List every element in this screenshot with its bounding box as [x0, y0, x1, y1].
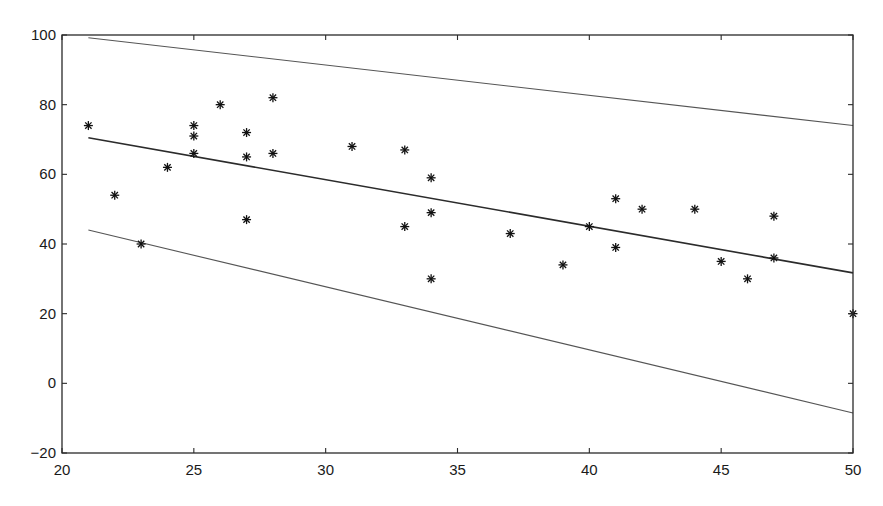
x-tick-label: 35 [449, 461, 466, 478]
chart-background [0, 0, 883, 506]
asterisk-marker-icon [611, 243, 620, 252]
y-tick-label: 20 [39, 305, 56, 322]
asterisk-marker-icon [400, 145, 409, 154]
asterisk-marker-icon [690, 205, 699, 214]
asterisk-marker-icon [506, 229, 515, 238]
x-tick-label: 30 [317, 461, 334, 478]
asterisk-marker-icon [769, 212, 778, 221]
asterisk-marker-icon [189, 121, 198, 130]
asterisk-marker-icon [769, 253, 778, 262]
x-tick-label: 20 [54, 461, 71, 478]
x-tick-label: 50 [845, 461, 862, 478]
x-tick-label: 40 [581, 461, 598, 478]
asterisk-marker-icon [216, 100, 225, 109]
y-tick-label: −20 [31, 444, 56, 461]
asterisk-marker-icon [268, 149, 277, 158]
asterisk-marker-icon [189, 149, 198, 158]
y-tick-label: 60 [39, 165, 56, 182]
asterisk-marker-icon [558, 260, 567, 269]
asterisk-marker-icon [638, 205, 647, 214]
asterisk-marker-icon [189, 132, 198, 141]
x-tick-label: 45 [713, 461, 730, 478]
asterisk-marker-icon [137, 240, 146, 249]
asterisk-marker-icon [585, 222, 594, 231]
x-tick-label: 25 [185, 461, 202, 478]
y-tick-label: 40 [39, 235, 56, 252]
asterisk-marker-icon [84, 121, 93, 130]
asterisk-marker-icon [268, 93, 277, 102]
asterisk-marker-icon [242, 128, 251, 137]
y-tick-label: 0 [48, 374, 56, 391]
asterisk-marker-icon [717, 257, 726, 266]
asterisk-marker-icon [427, 173, 436, 182]
asterisk-marker-icon [427, 208, 436, 217]
asterisk-marker-icon [242, 152, 251, 161]
scatter-chart: 20253035404550 100806040200−20 [0, 0, 883, 506]
asterisk-marker-icon [242, 215, 251, 224]
asterisk-marker-icon [163, 163, 172, 172]
asterisk-marker-icon [743, 274, 752, 283]
asterisk-marker-icon [427, 274, 436, 283]
asterisk-marker-icon [400, 222, 409, 231]
y-tick-label: 80 [39, 96, 56, 113]
asterisk-marker-icon [348, 142, 357, 151]
y-tick-label: 100 [31, 26, 56, 43]
asterisk-marker-icon [611, 194, 620, 203]
asterisk-marker-icon [110, 191, 119, 200]
